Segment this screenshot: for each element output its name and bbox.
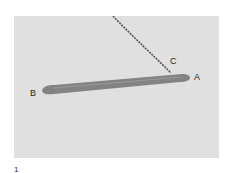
needle — [42, 74, 190, 94]
label-c: C — [170, 57, 177, 66]
needle-illustration — [14, 16, 219, 158]
thread — [113, 16, 171, 73]
photo-needle-and-thread — [14, 16, 219, 158]
label-b: B — [30, 89, 36, 98]
figure-number: 1 — [14, 165, 18, 173]
label-a: A — [194, 73, 200, 82]
